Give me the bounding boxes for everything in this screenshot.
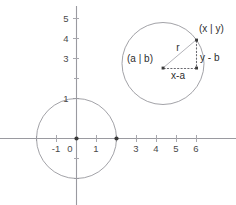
x-tick-label-6: 6 bbox=[193, 143, 198, 154]
center-point-label: (a | b) bbox=[127, 53, 153, 64]
y-tick-label-4: 4 bbox=[63, 33, 68, 44]
circle-center-point bbox=[162, 67, 165, 70]
circle-edge-point bbox=[195, 39, 198, 42]
unit-circle-intercept-point bbox=[114, 136, 118, 140]
radius-label: r bbox=[176, 42, 180, 53]
x-tick-label-minus1: -1 bbox=[52, 143, 60, 154]
coordinate-plane-figure: 5 4 3 1 -1 0 1 3 4 5 6 (a | b) (x | y) r… bbox=[0, 0, 236, 205]
edge-point-label: (x | y) bbox=[199, 23, 224, 34]
x-tick-label-0: 0 bbox=[67, 143, 72, 154]
x-tick-label-1: 1 bbox=[93, 143, 98, 154]
y-tick-label-1: 1 bbox=[63, 93, 68, 104]
horizontal-leg-label: x-a bbox=[171, 70, 185, 81]
y-tick-label-3: 3 bbox=[63, 53, 68, 64]
x-tick-label-5: 5 bbox=[173, 143, 178, 154]
figure-canvas: 5 4 3 1 -1 0 1 3 4 5 6 (a | b) (x | y) r… bbox=[0, 0, 236, 205]
axes-group bbox=[0, 6, 236, 205]
vertical-leg-label: y - b bbox=[200, 52, 220, 63]
x-tick-label-3: 3 bbox=[133, 143, 138, 154]
origin-point bbox=[74, 136, 78, 140]
y-tick-label-5: 5 bbox=[63, 13, 68, 24]
x-tick-label-4: 4 bbox=[153, 143, 158, 154]
right-angle-corner-point bbox=[195, 67, 198, 70]
